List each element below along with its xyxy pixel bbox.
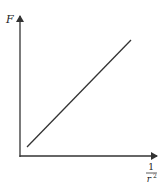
force-vs-inverse-square-diagram: F 1 r 2 <box>0 0 161 186</box>
x-label-denominator: r <box>147 174 152 184</box>
data-line <box>27 40 131 147</box>
x-label-exponent: 2 <box>153 172 157 179</box>
y-axis-label: F <box>5 13 14 26</box>
x-label-numerator: 1 <box>148 162 154 172</box>
x-axis-label: 1 r 2 <box>146 162 157 184</box>
